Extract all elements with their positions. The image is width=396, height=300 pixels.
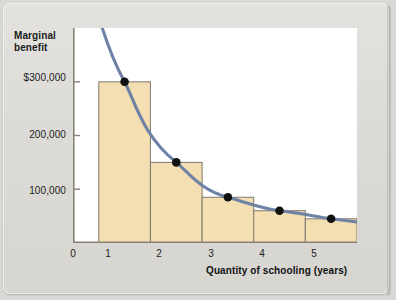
data-point-year-4 (275, 206, 284, 215)
data-point-year-3 (224, 193, 233, 202)
y-tick-label-200000: 200,000 (2, 129, 66, 140)
figure-container: Marginal benefit $300,000 200,000 100,00… (0, 0, 396, 300)
data-point-year-2 (172, 158, 181, 167)
data-point-year-1 (120, 78, 129, 87)
x-tick-label-3: 3 (199, 248, 223, 259)
x-tick-label-1: 1 (96, 248, 120, 259)
bar-year-1 (99, 82, 151, 243)
y-axis-title-line2: benefit (14, 42, 47, 53)
data-point-year-5 (327, 215, 336, 224)
x-tick-label-0: 0 (61, 248, 85, 259)
x-tick-label-2: 2 (147, 248, 171, 259)
plot-area (73, 28, 357, 243)
y-axis-title-line1: Marginal (14, 30, 56, 41)
x-tick-label-5: 5 (302, 248, 326, 259)
y-axis-title: Marginal benefit (14, 30, 56, 53)
x-axis-title: Quantity of schooling (years) (206, 265, 347, 276)
chart-svg (73, 28, 357, 243)
y-tick-label-100000: 100,000 (2, 185, 66, 196)
bars-group (99, 82, 357, 243)
bar-year-2 (151, 162, 203, 243)
bar-year-4 (254, 211, 306, 243)
x-tick-label-4: 4 (250, 248, 274, 259)
y-tick-label-300000: $300,000 (2, 72, 66, 83)
